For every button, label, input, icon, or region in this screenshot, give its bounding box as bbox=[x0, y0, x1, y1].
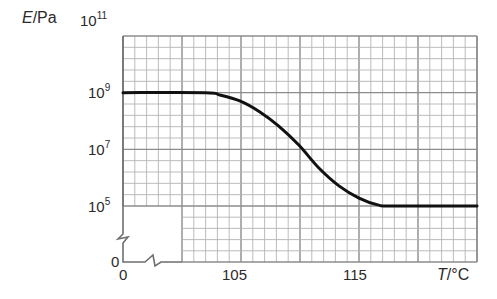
y-axis-var: E bbox=[22, 9, 33, 26]
x-axis-unit: /°C bbox=[447, 266, 469, 283]
y-axis-unit: /Pa bbox=[33, 9, 57, 26]
y-tick-1e9: 109 bbox=[88, 85, 110, 100]
y-tick-1e5: 105 bbox=[88, 199, 110, 214]
x-axis-var: T bbox=[437, 266, 447, 283]
y-tick-1e11: 1011 bbox=[80, 13, 107, 28]
y-axis-label: E/Pa bbox=[22, 10, 57, 26]
x-axis-label: T/°C bbox=[437, 267, 469, 283]
x-tick-0: 0 bbox=[119, 267, 127, 282]
axes bbox=[118, 36, 477, 266]
y-tick-1e7: 107 bbox=[88, 142, 110, 157]
x-tick-105: 105 bbox=[222, 267, 247, 282]
chart-canvas bbox=[0, 0, 497, 299]
x-tick-115: 115 bbox=[343, 267, 367, 282]
grid-lines bbox=[123, 36, 477, 262]
